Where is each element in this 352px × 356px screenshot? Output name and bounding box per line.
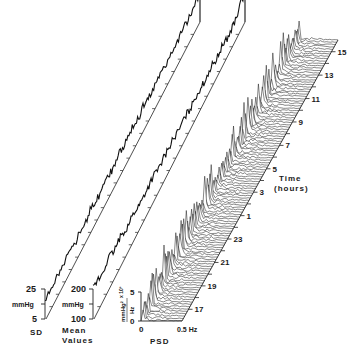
time-label-line2: (hours) — [274, 184, 309, 193]
mean-unit-label: mmHg — [62, 301, 84, 309]
time-tick-label: 19 — [208, 282, 217, 291]
sd-label: SD — [30, 328, 43, 337]
psd-unit-num: mmHg² — [120, 301, 126, 322]
psd-waterfall — [141, 21, 338, 321]
time-tick-label: 15 — [338, 48, 347, 57]
time-tick-label: 21 — [221, 258, 230, 267]
mean-label-line1: Mean — [62, 326, 86, 335]
psd-multiplier: x 10³ — [118, 286, 124, 298]
time-tick-label: 11 — [312, 95, 321, 104]
sd-top-label: 25 — [26, 284, 36, 294]
time-tick-label: 17 — [195, 305, 204, 314]
time-tick-label: 5 — [273, 165, 278, 174]
time-tick-label: 9 — [299, 118, 304, 127]
time-tick-label: 3 — [260, 188, 265, 197]
figure: 25 mmHg 5 SD 200 mmHg 100 Mean Values 17… — [0, 0, 352, 356]
time-tick-label: 23 — [234, 235, 243, 244]
time-label-line1: Time — [279, 174, 302, 183]
psd-label: PSD — [150, 337, 169, 346]
psd-y5-label: 5 — [130, 288, 135, 297]
mean-trace — [93, 0, 245, 285]
mean-label-line2: Values — [62, 336, 93, 345]
mean-top-label: 200 — [71, 284, 86, 294]
time-tick-label: 1 — [247, 212, 252, 221]
psd-y0-label: 0 — [130, 317, 135, 326]
psd-x0-label: 0 — [139, 325, 144, 334]
psd-x1-label: 0.5 Hz — [177, 326, 198, 333]
time-tick-label: 13 — [325, 71, 334, 80]
sd-bottom-label: 5 — [32, 314, 37, 324]
psd-panel: 1719212313579111315 5 0 mmHg² Hz x 10³ 0… — [118, 21, 347, 346]
psd-unit-den: Hz — [129, 307, 135, 314]
mean-bottom-label: 100 — [71, 314, 86, 324]
time-tick-label: 7 — [286, 141, 291, 150]
sd-unit-label: mmHg — [12, 301, 34, 309]
